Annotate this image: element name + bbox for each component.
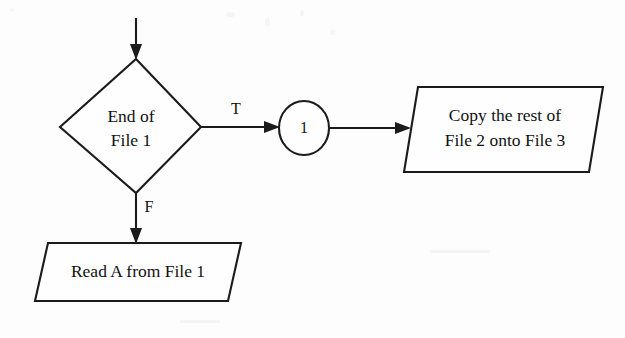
true-branch-arrow-head xyxy=(264,121,280,133)
copy-rest-label-line2: File 2 onto File 3 xyxy=(445,130,566,150)
node-connector[interactable]: 1 xyxy=(279,101,329,155)
edge-entry-to-decision xyxy=(130,18,142,60)
copy-rest-label-line1: Copy the rest of xyxy=(449,105,561,125)
node-read-a[interactable]: Read A from File 1 xyxy=(35,243,241,301)
edge-label-true: T xyxy=(231,100,241,117)
copy-arrow-head xyxy=(395,122,411,134)
edge-connector-to-copy xyxy=(330,122,411,134)
flowchart-svg: End of File 1 T 1 Copy the rest of File … xyxy=(0,0,625,338)
decision-label-line1: End of xyxy=(107,106,154,126)
node-copy-rest[interactable]: Copy the rest of File 2 onto File 3 xyxy=(404,87,603,172)
connector-label: 1 xyxy=(300,119,308,136)
node-decision[interactable]: End of File 1 xyxy=(60,59,201,193)
edge-decision-false: F xyxy=(130,193,154,244)
decision-label-line2: File 1 xyxy=(111,130,151,150)
flowchart-canvas: End of File 1 T 1 Copy the rest of File … xyxy=(0,0,625,338)
false-branch-arrow-head xyxy=(130,228,142,244)
edge-decision-true: T xyxy=(201,100,280,133)
edge-label-false: F xyxy=(145,198,154,215)
read-a-label: Read A from File 1 xyxy=(71,261,205,281)
